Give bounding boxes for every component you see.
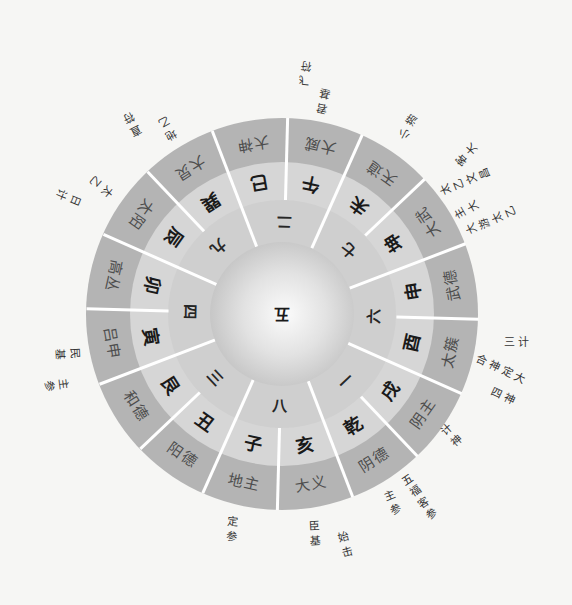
annotation-label: 飞符 [299, 57, 313, 88]
annotation-label: 君基 [317, 84, 334, 116]
inner-ring-number: 二 [277, 213, 292, 228]
annotation-label: 太乙文昌 [438, 166, 494, 197]
middle-ring-label: 申 [403, 281, 424, 302]
inner-ring-number: 八 [272, 399, 287, 414]
inner-ring-number: 六 [367, 309, 382, 324]
annotation-label: 定参 [224, 515, 237, 546]
outer-ring-label: 大神 [236, 133, 270, 153]
annotation-label: 主参 [39, 377, 70, 392]
annotation-label: 地乙 [156, 111, 180, 143]
outer-ring-label: 吕申 [101, 326, 121, 360]
annotation-label: 臣基 [308, 520, 321, 551]
annotation-label: 客大 [454, 139, 483, 168]
annotation-label: 计神 [438, 422, 466, 452]
annotation-label: 合神定大 [474, 353, 529, 387]
center-palace-label: 五 [274, 306, 290, 322]
inner-ring-number: 四 [181, 304, 196, 319]
annotation-label: 日计 [52, 185, 84, 206]
annotation-label: 三计 [504, 337, 532, 348]
middle-ring-label: 卯 [142, 274, 164, 296]
annotation-label: 四神 [489, 386, 519, 408]
annotation-label: 主参 [381, 488, 403, 520]
middle-ring-label: 酉 [401, 333, 423, 355]
annotation-label: 小游 [397, 110, 421, 142]
middle-ring-label: 午 [301, 174, 323, 196]
annotation-label: 直符 [121, 107, 144, 139]
middle-ring-label: 亥 [294, 435, 315, 456]
annotation-label: 民基 [51, 347, 82, 360]
middle-ring-label: 寅 [141, 326, 162, 347]
annotation-label: 始击 [336, 530, 354, 562]
middle-ring-label: 巳 [249, 173, 270, 194]
annotation-label: 太乙 [86, 171, 116, 199]
annotation-label: 五福客参 [399, 472, 439, 525]
